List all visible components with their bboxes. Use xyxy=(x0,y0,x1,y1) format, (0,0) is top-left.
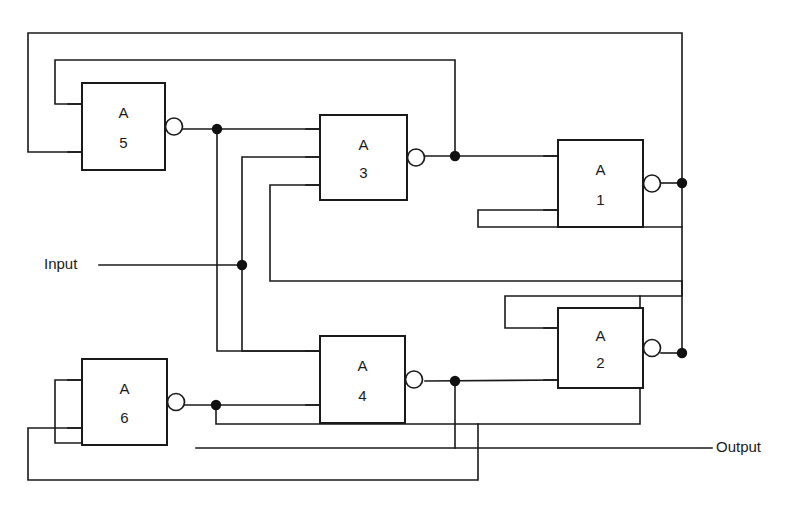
gate-body-a2 xyxy=(558,308,643,388)
a3-output-node xyxy=(450,151,460,161)
gate-a3: A3 xyxy=(320,115,425,200)
gate-label-prefix-a1: A xyxy=(595,161,605,178)
gate-label-number-a2: 2 xyxy=(596,354,604,371)
gate-label-prefix-a6: A xyxy=(119,380,129,397)
invert-bubble-a6 xyxy=(168,394,185,411)
a4-output-node xyxy=(450,376,460,386)
logic-diagram-canvas: A5A3A1A2A4A6InputOutput xyxy=(0,0,808,510)
gate-a1: A1 xyxy=(558,140,661,227)
gate-label-number-a6: 6 xyxy=(120,409,128,426)
net-a5-out-down xyxy=(217,129,320,351)
invert-bubble-a3 xyxy=(408,149,425,166)
gate-label-prefix-a3: A xyxy=(358,136,368,153)
net-input-to-a4 xyxy=(242,265,320,351)
gate-label-number-a5: 5 xyxy=(119,134,127,151)
gate-label-number-a4: 4 xyxy=(358,387,366,404)
a5-output-node xyxy=(212,124,222,134)
input-label: Input xyxy=(44,255,78,272)
invert-bubble-a4 xyxy=(406,371,423,388)
gate-a2: A2 xyxy=(558,308,661,388)
gate-label-number-a3: 3 xyxy=(359,164,367,181)
gate-label-prefix-a2: A xyxy=(595,327,605,344)
input-node xyxy=(237,260,247,270)
gate-label-prefix-a5: A xyxy=(118,104,128,121)
logic-schematic: A5A3A1A2A4A6InputOutput xyxy=(0,0,808,510)
a2-output-node xyxy=(677,348,687,358)
a6-output-node xyxy=(211,400,221,410)
gate-body-a1 xyxy=(558,140,643,227)
gate-a4: A4 xyxy=(320,336,423,423)
invert-bubble-a5 xyxy=(166,118,183,135)
output-label: Output xyxy=(716,438,762,455)
gate-body-a5 xyxy=(82,83,165,170)
a1-output-node xyxy=(677,178,687,188)
gate-layer: A5A3A1A2A4A6 xyxy=(82,83,661,445)
gate-a5: A5 xyxy=(82,83,183,170)
gate-a6: A6 xyxy=(82,359,185,445)
gate-body-a4 xyxy=(320,336,405,423)
net-input-to-a3 xyxy=(242,157,320,265)
net-a4-out-to-a2 xyxy=(425,380,558,381)
invert-bubble-a1 xyxy=(644,175,661,192)
gate-label-prefix-a4: A xyxy=(357,357,367,374)
gate-body-a3 xyxy=(320,115,407,200)
gate-body-a6 xyxy=(82,359,167,445)
gate-label-number-a1: 1 xyxy=(596,191,604,208)
invert-bubble-a2 xyxy=(644,340,661,357)
